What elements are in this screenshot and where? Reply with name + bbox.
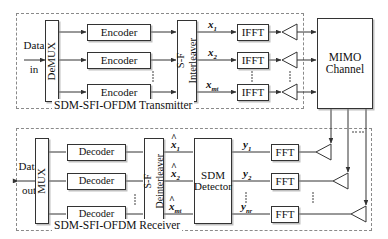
fft-block-2: FFT [271, 173, 299, 190]
ifft-ellipsis-icon [251, 71, 253, 82]
sf-interleaver-line1: S-F [176, 53, 187, 68]
sf-interleaver-block: S-F Interleaver [177, 20, 197, 102]
decoder-label: Decoder [79, 176, 115, 187]
sf-deinterleaver-block: S-F Deinterleaver [144, 138, 164, 224]
estimate-x2-label: ^x2 [171, 168, 180, 181]
mux-label: MUX [36, 168, 47, 194]
sf-deinterleaver-line2: Deinterleaver [155, 154, 165, 208]
encoder-block-1: Encoder [87, 24, 151, 41]
encoder-label: Encoder [101, 27, 138, 38]
sdm-detector-line2: Detector [194, 181, 232, 192]
ifft-block-2: IFFT [237, 52, 269, 69]
demux-block: DeMUX [45, 20, 59, 102]
block-diagram: Data in DeMUX Encoder Encoder Encoder S-… [0, 0, 388, 239]
mimo-channel-block: MIMO Channel [317, 18, 373, 109]
fft-label: FFT [276, 209, 295, 220]
channel-ellipsis-icon [352, 131, 364, 133]
fft-ellipsis-icon [312, 192, 314, 203]
received-y1-label: y1 [243, 139, 251, 152]
received-ynr-label: ynr [241, 201, 252, 215]
received-y2-label: y2 [243, 168, 251, 181]
ifft-label: IFFT [242, 55, 265, 66]
decoder-block-2: Decoder [67, 173, 126, 190]
estimate-x1-label: ^x1 [171, 139, 180, 152]
receiver-caption: SDM-SFI-OFDM Receiver [52, 219, 182, 231]
decoder-ellipsis-icon [134, 194, 136, 205]
transmitter-caption: SDM-SFI-OFDM Transmitter [52, 99, 194, 111]
sdm-detector-block: SDM Detector [194, 138, 232, 224]
fft-label: FFT [276, 147, 295, 158]
ifft-label: IFFT [242, 87, 265, 98]
signal-xmt-label: xmt [206, 79, 219, 93]
fft-block-1: FFT [271, 144, 299, 161]
ifft-block-3: IFFT [237, 84, 269, 101]
fft-block-3: FFT [271, 206, 299, 223]
ifft-label: IFFT [242, 27, 265, 38]
decoder-block-1: Decoder [67, 144, 126, 161]
mimo-channel-line2: Channel [326, 64, 364, 76]
encoder-block-2: Encoder [87, 52, 151, 69]
sf-deinterleaver-line1: S-F [143, 174, 153, 188]
mimo-channel-line1: MIMO [329, 52, 362, 64]
signal-x1-label: x1 [208, 19, 217, 32]
demux-label: DeMUX [46, 42, 57, 81]
fft-label: FFT [276, 176, 295, 187]
detector-input-ellipsis-icon [245, 192, 247, 203]
ifft-block-1: IFFT [237, 24, 269, 41]
sf-interleaver-line2: Interleaver [188, 38, 199, 83]
mux-block: MUX [35, 138, 49, 224]
tx-antenna-ellipsis-icon [289, 71, 291, 82]
encoder-label: Encoder [101, 55, 138, 66]
signal-x2-label: x2 [208, 47, 217, 60]
decoder-label: Decoder [79, 147, 115, 158]
encoder-label: Encoder [101, 87, 138, 98]
estimate-xmt-label: ^xmt [169, 201, 182, 215]
encoder-ellipsis-icon [152, 71, 154, 82]
